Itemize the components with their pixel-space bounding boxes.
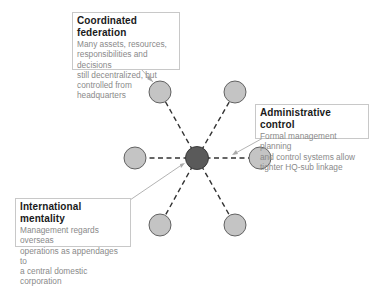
arrowhead-icon	[180, 163, 185, 168]
callout-international-mentality: International mentality Management regar…	[15, 198, 131, 247]
callout-line: operations as appendages to	[20, 246, 126, 267]
subsidiary-node-left	[124, 147, 146, 169]
headquarters-node	[186, 147, 209, 170]
callout-line: controlled from headquarters	[77, 80, 175, 101]
callout-coordinated-federation: Coordinated federation Many assets, reso…	[72, 12, 180, 70]
callout-line: a central domestic corporation	[20, 266, 126, 287]
callout-administrative-control: Administrative control Formal management…	[255, 104, 369, 139]
callout-line: and control systems allow	[260, 152, 364, 162]
callout-line: Many assets, resources,	[77, 39, 175, 49]
arrowhead-icon	[232, 150, 238, 155]
callout-title: Coordinated federation	[77, 15, 175, 39]
callout-title: Administrative control	[260, 107, 364, 131]
callout-title: International mentality	[20, 201, 126, 225]
callout-line: Formal management planning	[260, 131, 364, 152]
callout-line: tighter HQ-sub linkage	[260, 162, 364, 172]
subsidiary-node-bottom-right	[224, 214, 246, 236]
callout-line: responsibilities and decisions	[77, 49, 175, 70]
subsidiary-node-bottom-left	[149, 214, 171, 236]
subsidiary-node-top-right	[224, 81, 246, 103]
callout-line: Management regards overseas	[20, 225, 126, 246]
callout-line: still decentralized, but	[77, 70, 175, 80]
